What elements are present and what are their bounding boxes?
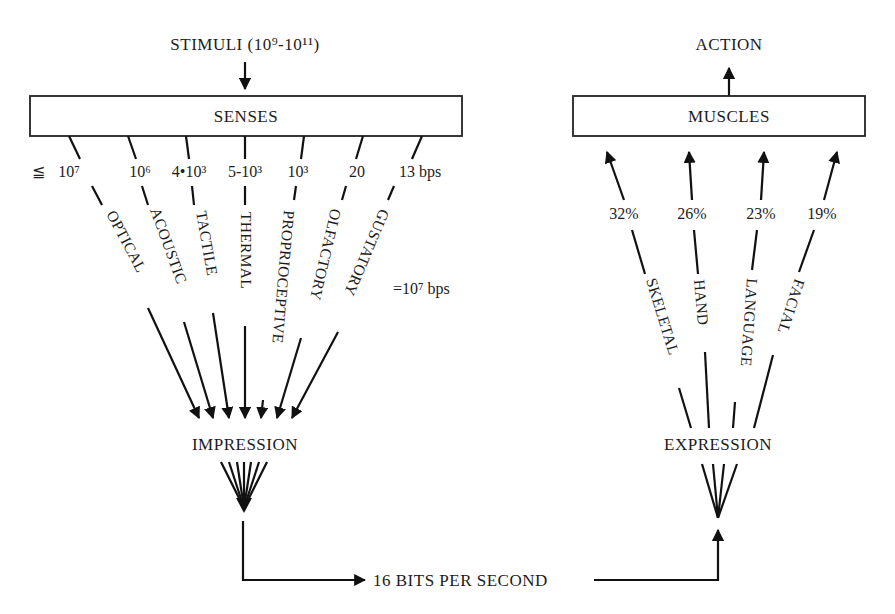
muscles-box-label: MUSCLES <box>688 107 770 126</box>
information-flow-diagram: STIMULI (10⁹-10¹¹) SENSES ≦ 10⁷ 10⁶ 4•10… <box>0 0 895 614</box>
impression-fan <box>221 462 267 513</box>
rate-thermal: 5-10³ <box>228 163 262 180</box>
expression-fan <box>702 464 737 518</box>
senses-box-label: SENSES <box>214 107 278 126</box>
channel-facial: FACIAL <box>775 277 809 336</box>
total-input-rate: =10⁷ bps <box>393 280 450 298</box>
rate-optical: 10⁷ <box>58 163 80 180</box>
rate-gustatory: 13 bps <box>399 163 441 181</box>
channel-language: LANGUAGE <box>738 278 761 367</box>
senses-box: SENSES <box>30 96 462 136</box>
sense-mid-segments <box>92 186 394 205</box>
sense-upper-segments <box>69 136 422 159</box>
expression-label: EXPRESSION <box>664 435 772 454</box>
channel-hand: HAND <box>691 279 712 326</box>
share-language: 23% <box>746 205 775 222</box>
rate-acoustic: 10⁶ <box>129 163 151 180</box>
sense-optical: OPTICAL <box>103 207 150 275</box>
output-mid-segments <box>632 230 814 274</box>
output-lower-segments <box>679 352 773 428</box>
rate-proprioceptive: 10³ <box>288 163 309 180</box>
sense-thermal: THERMAL <box>238 212 255 289</box>
channel-skeletal: SKELETAL <box>643 276 683 357</box>
share-facial: 19% <box>807 205 836 222</box>
rate-olfactory: 20 <box>349 163 365 180</box>
rate-tactile: 4•10³ <box>172 163 207 180</box>
share-hand: 26% <box>677 205 706 222</box>
impression-label: IMPRESSION <box>192 435 298 454</box>
action-label: ACTION <box>695 35 762 54</box>
sense-acoustic: ACOUSTIC <box>147 205 190 286</box>
sense-tactile: TACTILE <box>193 210 221 277</box>
less-equal-symbol: ≦ <box>32 163 45 180</box>
channel-bandwidth-label: 16 BITS PER SECOND <box>373 571 548 590</box>
sense-olfactory: OLFACTORY <box>307 207 345 302</box>
sense-gustatory: GUSTATORY <box>341 207 393 299</box>
sense-proprioceptive: PROPRIOCEPTIVE <box>269 210 298 344</box>
muscles-box: MUSCLES <box>573 96 865 136</box>
share-skeletal: 32% <box>609 205 638 222</box>
output-upper-arrows <box>607 152 837 200</box>
stimuli-label: STIMULI (10⁹-10¹¹) <box>170 35 319 54</box>
sense-lower-arrows <box>148 308 338 418</box>
